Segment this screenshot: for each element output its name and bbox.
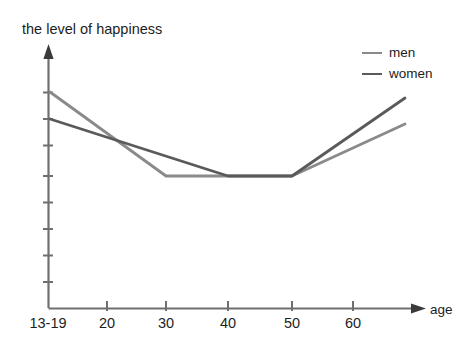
y-axis-title: the level of happiness: [22, 22, 162, 37]
y-axis-arrow-icon: [43, 44, 53, 59]
x-axis: [49, 303, 427, 313]
legend-label-women: women: [389, 66, 433, 81]
x-axis-title: age: [430, 303, 453, 317]
x-tick-label-40: 40: [220, 316, 236, 331]
x-tick-label-20: 20: [99, 316, 115, 331]
x-tick-label-13-19: 13-19: [29, 316, 66, 331]
legend-label-men: men: [389, 45, 415, 60]
chart-container: the level of happiness age 13-19 20 30 4…: [0, 0, 466, 353]
series-line-women: [50, 98, 405, 176]
legend-line-swatch-men: [362, 52, 382, 54]
chart-legend: men women: [362, 42, 462, 84]
x-tick-label-50: 50: [284, 316, 300, 331]
legend-line-swatch-women: [362, 73, 382, 75]
x-axis-arrow-icon: [411, 303, 426, 313]
legend-item-women: women: [362, 63, 462, 84]
x-tick-label-60: 60: [345, 316, 361, 331]
legend-item-men: men: [362, 42, 462, 63]
x-tick-label-30: 30: [158, 316, 174, 331]
